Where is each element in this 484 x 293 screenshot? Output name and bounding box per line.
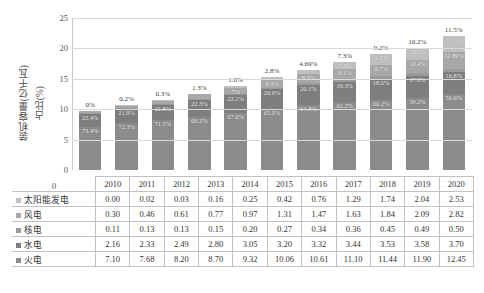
bar-segment-label: 67.6% [227,113,244,120]
bar-column[interactable]: 4.69%8.9%20.1%64.3% [290,18,326,170]
stacked-bar[interactable]: 22.4%73.4% [79,111,102,170]
table-cell: 2.33 [130,237,164,252]
bar-segment-风电[interactable]: 8.4% [261,80,284,88]
bar-segment-水电[interactable]: 21.8% [152,105,175,120]
bar-column[interactable]: 0.3%21.8%71.5% [145,18,181,170]
bar-segment-风电[interactable]: 10.4% [406,60,429,73]
table-column-header: 2020 [439,177,473,192]
bar-segment-水电[interactable]: 18.6% [370,79,393,100]
bar-segment-火电[interactable]: 71.5% [152,120,175,170]
legend-swatch-icon [16,228,21,233]
table-cell: 1.74 [370,192,404,207]
bar-segment-水电[interactable]: 20.1% [297,85,320,105]
bar-segment-label: 21.9% [118,109,135,116]
bar-segment-label: 12.89% [444,52,464,59]
table-row: 太阳能发电0.000.020.030.160.250.420.761.291.7… [12,192,474,207]
bar-column[interactable]: 7.3%7.3%9.1%19.3%62.2% [327,18,363,170]
bar-total-label: 10.2% [408,38,426,46]
bar-segment-风电[interactable]: 9.7% [370,65,393,76]
legend-item-太阳能发电[interactable]: 太阳能发电 [12,192,96,207]
bar-segment-label: 72.3% [118,123,135,130]
bar-segment-水电[interactable]: 20.9% [261,89,284,108]
table-row: 核电0.110.130.130.150.200.270.340.360.450.… [12,222,474,237]
legend-item-火电[interactable]: 火电 [12,252,96,267]
bar-segment-水电[interactable]: 22.4% [79,114,102,127]
bar-column[interactable]: 1.3%22.3%69.2% [181,18,217,170]
y-axis-tick: 5 [64,135,68,145]
legend-label: 水电 [24,240,42,250]
table-cell: 0.42 [267,192,301,207]
bar-column[interactable]: 10.2%10.2%10.4%17.8%59.2% [399,18,435,170]
bar-segment-火电[interactable]: 64.3% [297,105,320,170]
stacked-bar[interactable]: 21.8%71.5% [152,100,175,170]
bar-column[interactable]: 2.8%8.4%20.9%65.9% [254,18,290,170]
stacked-bar[interactable]: 22.3%69.2% [188,94,211,170]
bar-column[interactable]: 0.2%21.9%72.3% [108,18,144,170]
y-axis-tick: 0 [64,165,68,175]
bar-column[interactable]: 9.2%9.2%9.7%18.6%60.2% [363,18,399,170]
bar-total-label: 1.8% [228,76,243,84]
bar-segment-label: 9.7% [374,65,387,72]
bar-segment-风电[interactable]: 12.89% [443,52,466,69]
bar-segment-火电[interactable]: 73.4% [79,127,102,170]
table-column-header: 2017 [336,177,370,192]
bar-group: 0%22.4%73.4%0.2%21.9%72.3%0.3%21.8%71.5%… [72,18,472,170]
table-row: 风电0.300.460.610.770.971.311.471.631.842.… [12,207,474,222]
table-cell: 3.05 [233,237,267,252]
bar-total-label: 0.2% [119,95,134,103]
bar-segment-太阳能发电[interactable]: 9.2% [370,54,393,65]
table-cell: 3.53 [370,237,404,252]
bar-total-label: 11.5% [445,26,463,34]
table-column-header: 2014 [233,177,267,192]
bar-segment-火电[interactable]: 56.6% [443,94,466,170]
bar-segment-水电[interactable]: 22.1% [224,95,247,114]
stacked-bar[interactable]: 11.5%12.89%16.8%56.6% [443,36,466,170]
table-cell: 7.68 [130,252,164,267]
bar-segment-label: 9.2% [374,54,387,61]
table-cell: 7.10 [96,252,130,267]
legend-item-核电[interactable]: 核电 [12,222,96,237]
table-cell: 10.06 [267,252,301,267]
table-column-header: 2019 [405,177,439,192]
table-cell: 0.77 [199,207,233,222]
bar-column[interactable]: 1.8%7%22.1%67.6% [217,18,253,170]
bar-segment-水电[interactable]: 16.8% [443,72,466,94]
table-cell: 0.00 [96,192,130,207]
bar-total-label: 0% [86,101,95,109]
table-cell: 8.20 [164,252,198,267]
bar-segment-火电[interactable]: 67.6% [224,113,247,170]
bar-segment-太阳能发电[interactable]: 7.3% [333,62,356,70]
legend-item-风电[interactable]: 风电 [12,207,96,222]
stacked-bar[interactable]: 9.2%9.7%18.6%60.2% [370,54,393,170]
bar-segment-水电[interactable]: 21.9% [115,109,138,123]
y-axis-tick: 20 [60,43,69,53]
table-cell: 8.70 [199,252,233,267]
gridline [72,109,472,110]
bar-column[interactable]: 11.5%11.5%12.89%16.8%56.6% [436,18,472,170]
stacked-bar[interactable]: 7%22.1%67.6% [224,86,247,170]
table-cell: 1.47 [302,207,336,222]
table-cell: 0.49 [405,222,439,237]
bar-segment-label: 20.1% [300,85,317,92]
bar-segment-太阳能发电[interactable]: 10.2% [406,48,429,60]
bar-segment-火电[interactable]: 72.3% [115,123,138,170]
legend-item-水电[interactable]: 水电 [12,237,96,252]
bar-column[interactable]: 0%22.4%73.4% [72,18,108,170]
bar-segment-火电[interactable]: 62.2% [333,102,356,169]
chart-page: 装机容量(亿千瓦) 占比(%) 2520151050 0%22.4%73.4%0… [0,0,484,293]
legend-swatch-icon [16,258,21,263]
stacked-bar[interactable]: 8.9%20.1%64.3% [297,70,320,170]
table-cell: 0.50 [439,222,473,237]
bar-segment-火电[interactable]: 60.2% [370,100,393,170]
bar-segment-label: 73.4% [82,127,99,134]
y-axis-tick: 25 [60,13,69,23]
stacked-bar[interactable]: 21.9%72.3% [115,105,138,170]
bar-total-label: 1.3% [192,84,207,92]
bar-segment-火电[interactable]: 69.2% [188,117,211,170]
table-cell: 0.27 [267,222,301,237]
bar-segment-水电[interactable]: 19.3% [333,82,356,103]
table-column-header: 2011 [130,177,164,192]
stacked-bar[interactable]: 8.4%20.9%65.9% [261,77,284,170]
table-cell: 3.58 [405,237,439,252]
bar-total-label: 2.8% [265,67,280,75]
